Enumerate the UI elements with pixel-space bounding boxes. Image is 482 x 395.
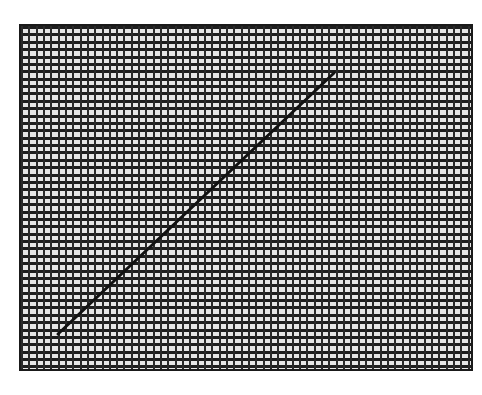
data-line <box>58 73 334 334</box>
line-chart-layer <box>0 0 482 395</box>
